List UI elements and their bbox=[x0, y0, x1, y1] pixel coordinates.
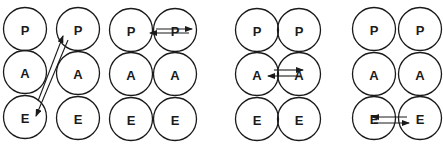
diagram-panels: PAEPAEPAEPAEPAEPAEPAEPAE bbox=[4, 8, 442, 141]
ego-state-label-parent: P bbox=[370, 23, 379, 38]
ego-state-label-child: E bbox=[74, 112, 83, 127]
ego-state-column-2: PAE bbox=[278, 9, 321, 141]
ego-state-label-child: E bbox=[21, 111, 30, 126]
ego-state-label-child: E bbox=[416, 112, 425, 127]
ego-state-label-parent: P bbox=[171, 24, 180, 39]
ego-state-label-adult: A bbox=[415, 68, 425, 83]
transactional-analysis-diagram: PAEPAEPAEPAEPAEPAEPAEPAE bbox=[0, 0, 443, 151]
ego-state-label-adult: A bbox=[126, 68, 136, 83]
ego-state-column-1: PAE bbox=[236, 9, 279, 141]
ego-state-column-1: PAE bbox=[353, 8, 396, 140]
panel-parent-parent: PAEPAE bbox=[110, 9, 197, 141]
panel-adult-adult: PAEPAE bbox=[236, 9, 321, 141]
ego-state-label-adult: A bbox=[20, 66, 30, 81]
ego-state-label-parent: P bbox=[127, 24, 136, 39]
ego-state-column-1: PAE bbox=[110, 9, 153, 141]
panel-child-child: PAEPAE bbox=[353, 8, 442, 140]
ego-state-label-parent: P bbox=[416, 23, 425, 38]
ego-state-label-parent: P bbox=[253, 24, 262, 39]
ego-state-column-2: PAE bbox=[154, 9, 197, 141]
panel-crossed-transaction: PAEPAE bbox=[4, 8, 100, 140]
ego-state-label-adult: A bbox=[369, 68, 379, 83]
ego-state-label-child: E bbox=[370, 112, 379, 127]
ego-state-label-parent: P bbox=[295, 24, 304, 39]
ego-state-label-adult: A bbox=[252, 68, 262, 83]
ego-state-label-adult: A bbox=[73, 67, 83, 82]
transaction-arrow-icon bbox=[36, 40, 68, 116]
ego-state-label-child: E bbox=[295, 113, 304, 128]
ego-state-column-2: PAE bbox=[57, 8, 100, 140]
ego-state-label-child: E bbox=[127, 113, 136, 128]
ego-state-label-parent: P bbox=[74, 23, 83, 38]
ego-state-label-adult: A bbox=[170, 68, 180, 83]
ego-state-label-child: E bbox=[253, 113, 262, 128]
ego-state-label-child: E bbox=[171, 113, 180, 128]
ego-state-column-1: PAE bbox=[4, 8, 47, 139]
ego-state-label-parent: P bbox=[21, 23, 30, 38]
ego-state-column-2: PAE bbox=[399, 8, 442, 140]
transaction-arrow-icon bbox=[38, 36, 63, 101]
